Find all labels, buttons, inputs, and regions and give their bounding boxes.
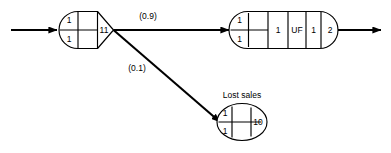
node-queue-server-cell-queue-bottom: 1 [67,34,72,44]
node-uf-cell-1b: 1 [311,25,316,35]
node-lost-sales-caption: Lost sales [223,90,261,100]
node-uf-cell-1a: 1 [276,25,281,35]
edge-to-lost-sales-label: (0.1) [128,63,146,73]
node-uf-cell-2: 2 [328,25,333,35]
flow-diagram-canvas: 1 1 11 (0.9) (0.1) 1 1 [0,0,391,153]
edge-to-uf-label: (0.9) [139,11,157,21]
node-queue-server-cell-queue-top: 1 [67,15,72,25]
node-lost-sales-cell-queue-bottom: 1 [223,126,228,136]
edge-to-lost-sales-line [114,30,221,122]
flow-diagram: 1 1 11 (0.9) (0.1) 1 1 [0,0,391,153]
node-lost-sales[interactable]: Lost sales 1 1 10 [217,90,267,140]
node-lost-sales-cell-queue-top: 1 [223,108,228,118]
node-queue-server-cell-server: 11 [100,25,109,35]
node-uf-cell-uf: UF [291,25,302,35]
node-lost-sales-cell-server: 10 [253,117,263,127]
node-uf-cell-queue-top: 1 [237,15,242,25]
node-uf-cell-queue-bottom: 1 [237,34,242,44]
node-queue-server[interactable]: 1 1 11 [59,12,114,49]
edge-to-uf: (0.9) [114,11,230,30]
node-uf[interactable]: 1 1 1 UF 1 2 [229,12,338,49]
edge-to-lost-sales: (0.1) [114,30,221,122]
